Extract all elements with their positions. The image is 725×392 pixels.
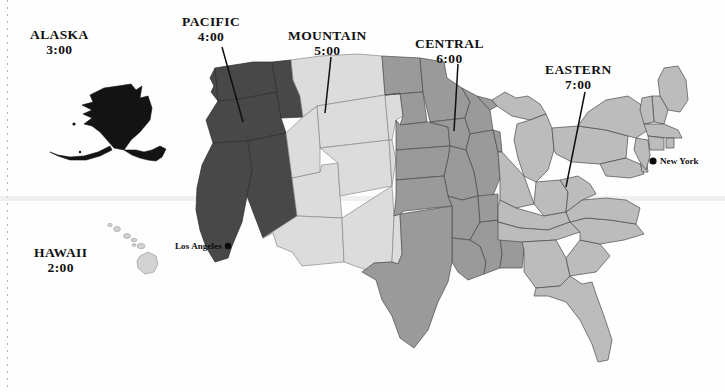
zone-label-mountain-time: 5:00 (288, 43, 367, 58)
alaska-island-dot-2 (79, 151, 81, 153)
state-alaska[interactable] (82, 84, 152, 150)
hawaii-island-lanai (132, 244, 136, 247)
hawaii-island-oahu (124, 234, 131, 239)
zone-region-hawaii[interactable] (108, 223, 158, 274)
zone-label-alaska-name: ALASKA (30, 27, 89, 42)
zone-label-eastern: EASTERN 7:00 (545, 62, 612, 92)
zone-label-hawaii-name: HAWAII (34, 245, 87, 260)
zone-label-pacific-time: 4:00 (182, 29, 240, 44)
alaska-aleutian-tail[interactable] (50, 146, 112, 160)
state-western-tennessee-sliver[interactable] (478, 194, 498, 222)
state-minnesota[interactable] (420, 58, 470, 122)
zone-label-hawaii-time: 2:00 (34, 260, 87, 275)
state-connecticut[interactable] (648, 136, 664, 150)
zone-label-eastern-name: EASTERN (545, 62, 612, 77)
zone-label-central-name: CENTRAL (415, 36, 484, 51)
alaska-aleutian-chain[interactable] (124, 146, 166, 161)
state-kansas[interactable] (396, 146, 450, 180)
state-south-carolina[interactable] (566, 240, 610, 276)
zone-label-mountain-name: MOUNTAIN (288, 28, 367, 43)
city-label-los-angeles: Los Angeles (175, 241, 222, 251)
zone-label-central: CENTRAL 6:00 (415, 36, 484, 66)
zone-label-eastern-time: 7:00 (545, 77, 612, 92)
state-florida[interactable] (534, 276, 612, 362)
city-label-new-york: New York (660, 156, 699, 166)
zone-region-eastern[interactable] (492, 66, 688, 362)
city-dot-los-angeles[interactable] (225, 243, 231, 249)
city-dot-new-york[interactable] (649, 157, 656, 164)
state-new-mexico[interactable] (342, 186, 394, 272)
zone-label-central-time: 6:00 (415, 51, 484, 66)
hawaii-island-niihau (108, 223, 112, 226)
state-rhode-island[interactable] (666, 138, 674, 148)
time-zone-map-figure: ALASKA 3:00 PACIFIC 4:00 MOUNTAIN 5:00 C… (0, 0, 725, 392)
state-georgia[interactable] (522, 240, 570, 288)
zone-label-pacific: PACIFIC 4:00 (182, 14, 240, 44)
zone-label-hawaii: HAWAII 2:00 (34, 245, 87, 275)
state-michigan-upper-peninsula[interactable] (492, 92, 546, 120)
hawaii-island-maui (137, 243, 145, 248)
zone-label-alaska: ALASKA 3:00 (30, 27, 89, 57)
hawaii-island-molokai (131, 238, 137, 241)
zone-label-mountain: MOUNTAIN 5:00 (288, 28, 367, 58)
zone-region-alaska[interactable] (50, 84, 166, 161)
alaska-island-dot-1 (72, 122, 75, 125)
hawaii-island-hawaii (137, 252, 158, 274)
us-timezone-map-svg (0, 0, 725, 392)
hawaii-island-kauai (114, 226, 121, 231)
zone-label-pacific-name: PACIFIC (182, 14, 240, 29)
state-ohio[interactable] (534, 180, 568, 216)
zone-label-alaska-time: 3:00 (30, 42, 89, 57)
